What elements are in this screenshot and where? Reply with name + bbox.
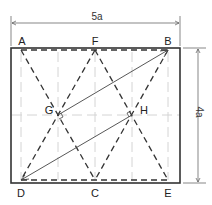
- point-label-c: C: [91, 187, 99, 199]
- geometry-diagram: 5a 4a A F B G H D C E: [0, 0, 212, 205]
- point-label-g: G: [45, 104, 54, 116]
- point-label-d: D: [17, 187, 25, 199]
- point-label-f: F: [92, 35, 99, 47]
- point-label-h: H: [140, 104, 148, 116]
- point-label-b: B: [164, 35, 171, 47]
- point-label-e: E: [164, 187, 171, 199]
- height-label: 4a: [194, 106, 205, 118]
- guide-lines: [12, 52, 180, 180]
- width-label: 5a: [91, 11, 103, 22]
- point-label-a: A: [18, 35, 26, 47]
